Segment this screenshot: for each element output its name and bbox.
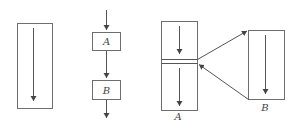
callee-label: B [260,102,268,113]
single-block [18,24,53,109]
return-arrow-icon [199,65,249,100]
panel-sequential-blocks: A B [93,10,121,118]
panel-call-return: A B [162,22,285,123]
caller-label: A [173,111,181,122]
block-a-label: A [102,36,110,47]
callee-block-b [249,31,285,100]
call-arrow-icon [198,31,248,60]
diagram-canvas: A B A B [0,0,297,130]
block-b-label: B [102,85,110,96]
panel-single-block [18,24,53,109]
